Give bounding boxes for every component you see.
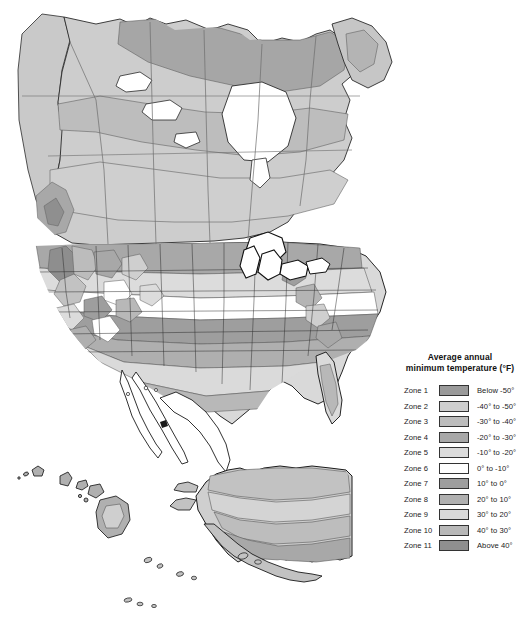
legend-title-line-2: minimum temperature (°F): [406, 363, 514, 373]
legend-zone-label: Zone 2: [404, 402, 439, 411]
legend-row-zone-10[interactable]: Zone 10 40° to 30°: [404, 523, 522, 539]
legend: Average annual minimum temperature (°F) …: [404, 352, 522, 554]
legend-range-label: Below -50°: [477, 386, 514, 395]
legend-zone-label: Zone 11: [404, 541, 439, 550]
legend-row-zone-9[interactable]: Zone 9 30° to 20°: [404, 507, 522, 523]
legend-title-line-1: Average annual: [428, 352, 492, 362]
legend-swatch: [439, 401, 469, 412]
legend-swatch: [439, 525, 469, 536]
legend-row-zone-1[interactable]: Zone 1 Below -50°: [404, 383, 522, 399]
legend-row-zone-2[interactable]: Zone 2 -40° to -50°: [404, 399, 522, 415]
legend-row-zone-7[interactable]: Zone 7 10° to 0°: [404, 476, 522, 492]
legend-range-label: 10° to 0°: [477, 479, 507, 488]
legend-zone-label: Zone 7: [404, 479, 439, 488]
hawaii-inset[interactable]: [18, 466, 130, 538]
legend-zone-label: Zone 6: [404, 464, 439, 473]
legend-swatch: [439, 509, 469, 520]
legend-zone-label: Zone 9: [404, 510, 439, 519]
legend-swatch: [439, 463, 469, 474]
legend-range-label: -30° to -40°: [477, 417, 516, 426]
legend-range-label: -20° to -30°: [477, 433, 516, 442]
legend-zone-label: Zone 10: [404, 526, 439, 535]
legend-swatch: [439, 385, 469, 396]
legend-swatch: [439, 432, 469, 443]
legend-range-label: Above 40°: [477, 541, 513, 550]
legend-range-label: 20° to 10°: [477, 495, 511, 504]
legend-swatch: [439, 540, 469, 551]
legend-row-zone-4[interactable]: Zone 4 -20° to -30°: [404, 430, 522, 446]
legend-title: Average annual minimum temperature (°F): [402, 352, 518, 374]
legend-range-label: -40° to -50°: [477, 402, 516, 411]
legend-row-zone-11[interactable]: Zone 11 Above 40°: [404, 538, 522, 554]
legend-zone-label: Zone 1: [404, 386, 439, 395]
legend-zone-label: Zone 8: [404, 495, 439, 504]
legend-swatch: [439, 447, 469, 458]
alaska-inset[interactable]: [124, 466, 352, 608]
map-area[interactable]: [0, 0, 420, 627]
legend-zone-label: Zone 4: [404, 433, 439, 442]
legend-row-zone-5[interactable]: Zone 5 -10° to -20°: [404, 445, 522, 461]
legend-range-label: 30° to 20°: [477, 510, 511, 519]
legend-row-zone-8[interactable]: Zone 8 20° to 10°: [404, 492, 522, 508]
legend-zone-label: Zone 3: [404, 417, 439, 426]
legend-range-label: 40° to 30°: [477, 526, 511, 535]
legend-row-zone-6[interactable]: Zone 6 0° to -10°: [404, 461, 522, 477]
region-canada[interactable]: [18, 14, 362, 245]
legend-zone-label: Zone 5: [404, 448, 439, 457]
legend-range-label: -10° to -20°: [477, 448, 516, 457]
north-america-map[interactable]: [0, 0, 420, 627]
legend-swatch: [439, 416, 469, 427]
legend-range-label: 0° to -10°: [477, 464, 509, 473]
legend-row-zone-3[interactable]: Zone 3 -30° to -40°: [404, 414, 522, 430]
map-figure: Average annual minimum temperature (°F) …: [0, 0, 522, 627]
legend-swatch: [439, 494, 469, 505]
region-united-states[interactable]: [36, 232, 386, 424]
legend-swatch: [439, 478, 469, 489]
